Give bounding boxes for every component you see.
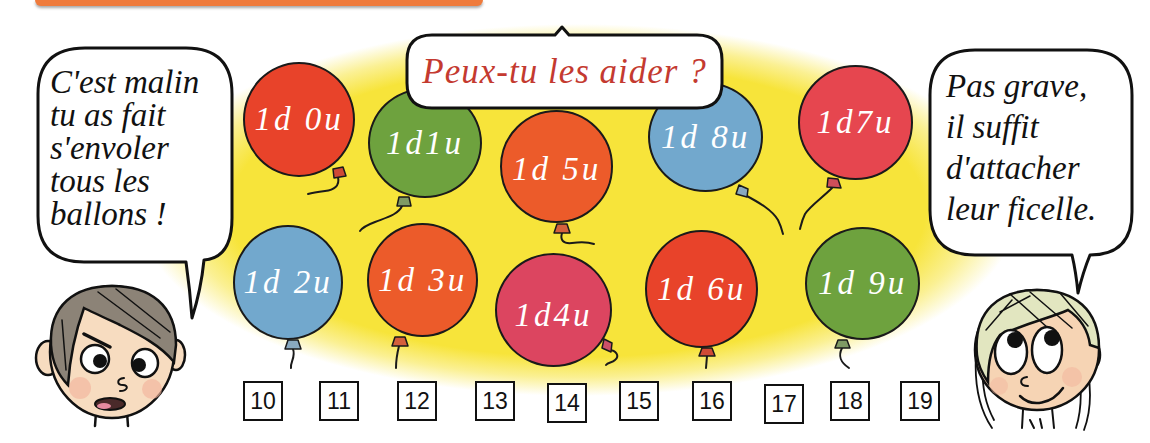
boy-right-pupil [132,358,146,372]
boy-tongue [97,403,111,409]
center-question-text: Peux-tu les aider ? [407,35,722,108]
left-speech-text: C'est malin tu as fait s'envoler tous le… [50,66,232,231]
number-box-10: 10 [243,381,283,421]
speech-line: d'attacher [946,148,1128,189]
boy-character [36,286,185,426]
knot-1d0u [333,167,346,178]
boy-left-pupil [93,354,107,368]
knot-1d4u [602,339,612,352]
knot-1d3u [392,337,408,346]
speech-line: tu as fait [50,99,232,132]
number-box-18: 18 [830,381,870,421]
speech-line: Pas grave, [946,66,1128,107]
header-banner [35,0,483,6]
number-box-17: 17 [764,384,804,424]
girl-cheek [990,377,1008,395]
balloon-exercise-illustration: 1d 0u 1d1u 1d 5u 1d 8u 1d7u 1d 2u 1d 3u … [0,0,1150,443]
number-box-16: 16 [692,381,732,421]
speech-line: tous les [50,165,232,198]
girl-left-pupil [1007,332,1023,348]
speech-line: il suffit [946,107,1128,148]
knot-1d7u [827,178,841,188]
right-speech-text: Pas grave, il suffit d'attacher leur fic… [946,66,1128,230]
knot-1d6u [699,348,715,356]
girl-character [975,290,1100,430]
speech-line: s'envoler [50,132,232,165]
speech-line: C'est malin [50,66,232,99]
knot-1d8u [736,185,748,197]
girl-cheek [1062,367,1082,387]
number-box-12: 12 [397,381,437,421]
knot-1d2u [285,340,301,349]
knot-1d5u [554,224,570,233]
boy-cheek [69,377,91,399]
number-box-15: 15 [619,381,659,421]
speech-line: ballons ! [50,198,232,231]
speech-line: leur ficelle. [946,189,1128,230]
question-label: Peux-tu les aider ? [422,52,706,92]
boy-cheek [142,379,162,399]
number-box-11: 11 [319,381,359,421]
girl-right-pupil [1044,330,1060,346]
number-box-14: 14 [547,383,587,423]
number-box-13: 13 [475,381,515,421]
number-box-19: 19 [900,381,940,421]
knot-1d9u [835,340,850,348]
knot-1d1u [397,197,411,206]
balloon-knots [285,167,850,356]
